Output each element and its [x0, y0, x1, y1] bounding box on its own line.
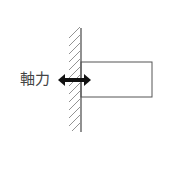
double-arrow-icon [58, 74, 91, 86]
axial-force-diagram [0, 0, 173, 178]
beam [81, 62, 152, 97]
axial-force-label: 軸力 [20, 70, 50, 88]
